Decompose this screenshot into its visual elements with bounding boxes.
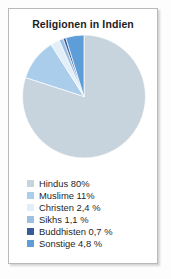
legend-color-swatch — [27, 240, 34, 247]
page-title: Religionen in Indien — [9, 18, 157, 30]
legend-color-swatch — [27, 228, 34, 235]
pie-slice-group — [23, 35, 146, 158]
legend-item: Sikhs 1,1 % — [27, 214, 153, 226]
legend: Hindus 80%Muslime 11%Christen 2,4 %Sikhs… — [27, 178, 153, 250]
legend-color-swatch — [27, 180, 34, 187]
figure-frame: Religionen in Indien Hindus 80%Muslime 1… — [8, 8, 158, 264]
legend-item: Buddhisten 0,7 % — [27, 226, 153, 238]
legend-item-label: Sonstige 4,8 % — [39, 238, 102, 249]
legend-item: Hindus 80% — [27, 178, 153, 190]
pie-chart-svg — [17, 34, 151, 159]
legend-color-swatch — [27, 192, 34, 199]
legend-color-swatch — [27, 216, 34, 223]
pie-chart-figure: Religionen in Indien Hindus 80%Muslime 1… — [0, 0, 171, 279]
legend-item-label: Buddhisten 0,7 % — [39, 226, 113, 237]
legend-item-label: Hindus 80% — [39, 178, 90, 189]
legend-color-swatch — [27, 204, 34, 211]
legend-item-label: Christen 2,4 % — [39, 202, 101, 213]
legend-item-label: Muslime 11% — [39, 190, 95, 201]
legend-item: Christen 2,4 % — [27, 202, 153, 214]
pie-chart — [17, 34, 151, 159]
legend-item: Muslime 11% — [27, 190, 153, 202]
legend-item-label: Sikhs 1,1 % — [39, 214, 89, 225]
legend-item: Sonstige 4,8 % — [27, 238, 153, 250]
